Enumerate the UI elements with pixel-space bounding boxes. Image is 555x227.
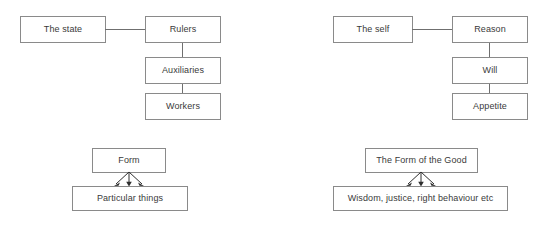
node-label: Particular things (97, 194, 163, 203)
connector-state-to-rulers (105, 29, 146, 30)
node-label: Wisdom, justice, right behaviour etc (348, 194, 494, 203)
node-rulers[interactable]: Rulers (145, 16, 221, 43)
diagram-canvas: The state Rulers Auxiliaries Workers The… (0, 0, 555, 227)
node-label: Form (118, 156, 139, 165)
node-label: Reason (474, 25, 506, 34)
node-form-of-the-good[interactable]: The Form of the Good (365, 148, 478, 173)
node-form[interactable]: Form (92, 148, 166, 173)
node-label: Auxiliaries (162, 66, 204, 75)
node-appetite[interactable]: Appetite (452, 93, 528, 120)
node-auxiliaries[interactable]: Auxiliaries (145, 57, 221, 84)
node-label: Appetite (473, 102, 507, 111)
node-label: Rulers (170, 25, 197, 34)
node-label: The Form of the Good (376, 156, 467, 165)
node-label: The self (357, 25, 390, 34)
node-label: Will (483, 66, 498, 75)
node-reason[interactable]: Reason (452, 16, 528, 43)
node-the-state[interactable]: The state (20, 16, 106, 43)
node-workers[interactable]: Workers (145, 93, 221, 120)
node-the-self[interactable]: The self (333, 16, 413, 43)
node-particular-things[interactable]: Particular things (72, 186, 188, 211)
node-label: Workers (166, 102, 200, 111)
node-label: The state (44, 25, 82, 34)
node-will[interactable]: Will (452, 57, 528, 84)
node-virtues[interactable]: Wisdom, justice, right behaviour etc (333, 186, 508, 211)
connector-rulers-to-auxiliaries (182, 43, 183, 57)
connector-self-to-reason (412, 29, 453, 30)
connector-reason-to-will (489, 43, 490, 57)
